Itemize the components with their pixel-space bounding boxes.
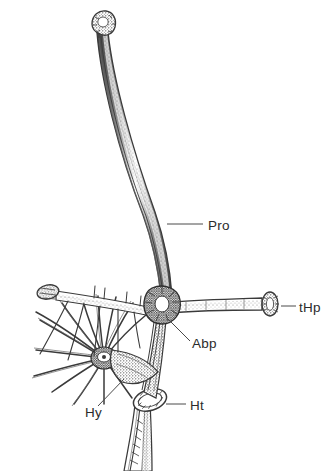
thp-knob: [262, 292, 279, 316]
abp-junction: [144, 285, 180, 324]
label-hy: Hy: [85, 405, 102, 420]
label-thp: tHp: [299, 300, 321, 315]
anatomical-line-drawing: Pro tHp Abp Hy Ht: [0, 0, 331, 471]
label-pro: Pro: [208, 218, 230, 233]
pro-apex: [92, 11, 116, 35]
label-abp: Abp: [192, 336, 217, 351]
figure-container: Pro tHp Abp Hy Ht: [0, 0, 331, 471]
label-ht: Ht: [190, 398, 204, 413]
